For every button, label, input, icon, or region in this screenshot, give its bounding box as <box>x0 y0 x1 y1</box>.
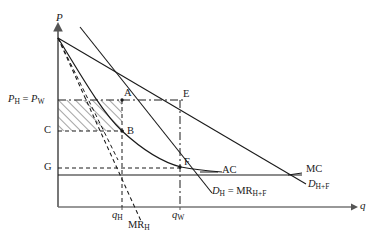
quantity-tick-qw: qW <box>172 210 184 221</box>
curve-label-dhf: DH+F <box>308 179 330 190</box>
curve-label-mrh: MRH <box>128 220 150 231</box>
curve-label-dh-mrhf: DH = MRH+F <box>212 186 266 197</box>
quantity-tick-qh: qH <box>112 210 123 221</box>
point-label-E: E <box>183 89 189 100</box>
point-marker-F <box>178 165 181 168</box>
y-axis-label: P <box>56 12 63 23</box>
curve-label-mc: MC <box>306 164 322 175</box>
price-tick-c: C <box>44 125 51 136</box>
profit-rectangle-fill <box>58 100 122 131</box>
point-marker-B <box>120 129 123 132</box>
point-marker-A <box>120 98 123 101</box>
curve-label-ac: AC <box>222 165 237 176</box>
diagram-canvas <box>0 0 382 242</box>
point-label-A: A <box>124 88 132 99</box>
point-label-F: F <box>184 157 190 168</box>
economics-diagram: P q PH = PW C G qH qW A B E F AC MC DH+F… <box>0 0 382 242</box>
price-tick-g: G <box>44 162 52 173</box>
mr-inner-dashed-line <box>58 38 118 160</box>
point-label-B: B <box>127 126 134 137</box>
x-axis-label: q <box>360 200 366 211</box>
price-tick-pw: PH = PW <box>8 94 45 105</box>
